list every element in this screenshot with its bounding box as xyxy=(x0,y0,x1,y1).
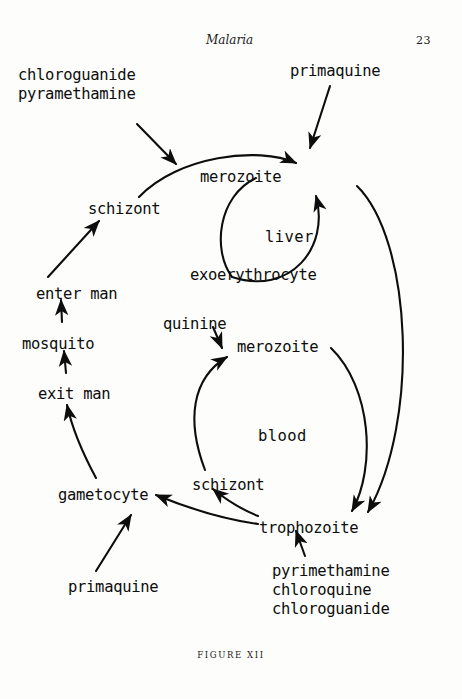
node-merozoite-liver: merozoite xyxy=(200,168,281,186)
edge-exitman-to-mosquito xyxy=(64,351,66,373)
edge-schizont-to-merozoite-blood xyxy=(194,357,227,470)
figure-caption: FIGURE XII xyxy=(0,650,462,660)
drug-line-primaquine-top: primaquine xyxy=(290,62,380,81)
drug-line-chloroguanide: chloroguanide xyxy=(272,600,389,619)
node-merozoite-blood: merozoite xyxy=(237,338,318,356)
node-mosquito: mosquito xyxy=(22,335,94,353)
drug-line-chloroquine: chloroquine xyxy=(272,581,389,600)
drug-line-chloroguanide: chloroguanide xyxy=(18,66,135,85)
drug-pyrimethamine-chloroquine-chloroguanide: pyrimethamine chloroquine chloroguanide xyxy=(272,562,389,619)
drug-line-pyramethamine: pyramethamine xyxy=(18,85,135,104)
node-exit-man: exit man xyxy=(38,385,110,403)
arrow-chloroguanide-pyramethamine xyxy=(137,124,176,164)
drug-primaquine-top: primaquine xyxy=(290,62,380,81)
node-schizont-liver: schizont xyxy=(88,200,160,218)
compartment-label-blood: blood xyxy=(258,427,307,445)
node-gametocyte: gametocyte xyxy=(58,486,148,504)
arrow-primaquine-top xyxy=(310,86,330,148)
drug-line-primaquine-bottom: primaquine xyxy=(68,578,158,597)
edge-mosquito-to-enterman xyxy=(61,300,62,322)
edge-merozoite-liver-to-trophozoite xyxy=(357,186,403,512)
edge-enterman-to-schizont-liver xyxy=(48,221,99,277)
drug-quinine: quinine xyxy=(163,315,226,334)
drug-line-pyrimethamine: pyrimethamine xyxy=(272,562,389,581)
drug-primaquine-bottom: primaquine xyxy=(68,578,158,597)
drug-chloroguanide-pyramethamine: chloroguanide pyramethamine xyxy=(18,66,135,104)
drug-line-quinine: quinine xyxy=(163,315,226,334)
compartment-label-liver: liver xyxy=(265,228,314,246)
arrow-primaquine-bottom xyxy=(96,515,131,571)
node-trophozoite: trophozoite xyxy=(259,519,358,537)
node-enter-man: enter man xyxy=(36,285,117,303)
node-schizont-blood: schizont xyxy=(192,476,264,494)
node-exoerythrocyte: exoerythrocyte xyxy=(190,266,316,284)
edge-merozoite-to-exoerythrocyte xyxy=(221,178,256,277)
edge-merozoite-blood-to-trophozoite xyxy=(331,348,367,511)
figure-page: Malaria 23 xyxy=(0,0,462,699)
edge-gametocyte-to-exitman xyxy=(67,405,96,478)
